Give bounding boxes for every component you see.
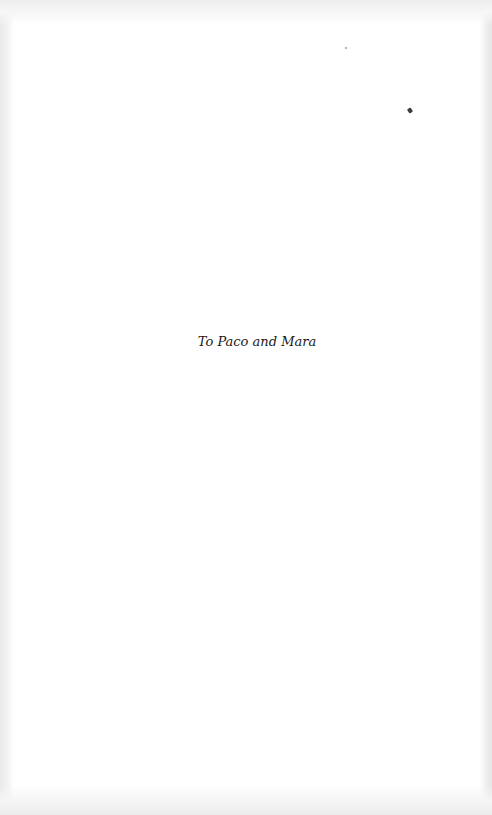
page-edge-shadow-top [0,0,492,26]
scan-speck [345,47,347,49]
page-edge-shadow-left [0,0,14,815]
page-edge-shadow-right [480,0,492,815]
book-page: To Paco and Mara [0,0,492,815]
scan-speck [407,107,413,113]
dedication-text: To Paco and Mara [0,333,492,351]
page-edge-shadow-bottom [0,785,492,815]
